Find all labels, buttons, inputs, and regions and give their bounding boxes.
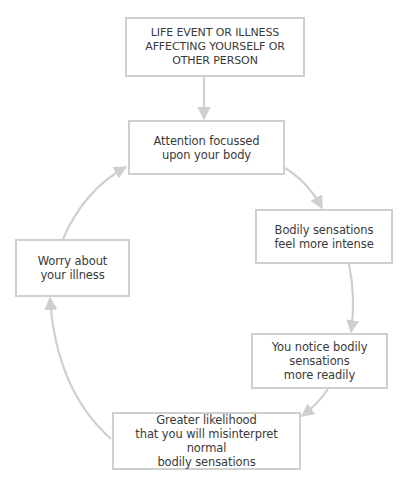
- node-attention-focussed-label: Attention focussed upon your body: [154, 134, 260, 162]
- node-worry-illness: Worry about your illness: [15, 239, 130, 297]
- node-sensations-intense-label: Bodily sensations feel more intense: [274, 223, 373, 251]
- node-worry-illness-label: Worry about your illness: [38, 254, 108, 282]
- node-attention-focussed: Attention focussed upon your body: [128, 120, 285, 175]
- arrow-intense-to-notice: [349, 264, 353, 332]
- arrow-misinterpret-to-worry: [50, 298, 111, 439]
- node-misinterpret-label: Greater likelihood that you will misinte…: [118, 413, 295, 469]
- arrow-notice-to-misinterpret: [302, 389, 328, 416]
- node-misinterpret: Greater likelihood that you will misinte…: [112, 412, 301, 470]
- node-life-event: LIFE EVENT OR ILLNESS AFFECTING YOURSELF…: [125, 17, 305, 77]
- node-notice-sensations-label: You notice bodily sensations more readil…: [272, 340, 368, 382]
- node-life-event-label: LIFE EVENT OR ILLNESS AFFECTING YOURSELF…: [145, 26, 285, 68]
- node-sensations-intense: Bodily sensations feel more intense: [255, 209, 393, 264]
- node-notice-sensations: You notice bodily sensations more readil…: [251, 333, 388, 389]
- arrow-worry-to-attention: [63, 167, 126, 239]
- arrow-attention-to-intense: [285, 168, 322, 208]
